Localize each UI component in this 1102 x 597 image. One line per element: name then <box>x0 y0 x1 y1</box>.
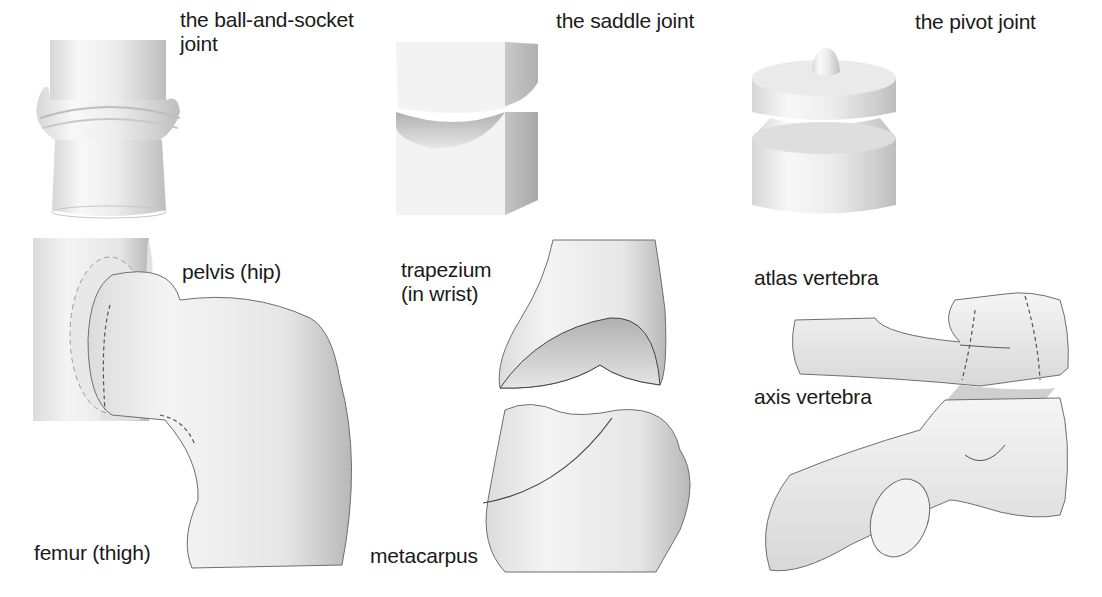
pivot-joint-model-icon <box>752 48 896 214</box>
thumb-joint-illustration-icon <box>483 240 690 572</box>
axis-vertebra-label: axis vertebra <box>754 385 872 409</box>
ball-and-socket-joint-model-icon <box>36 40 180 218</box>
saddle-joint-model-icon <box>396 42 538 215</box>
ball-and-socket-joint-label: the ball-and-socket joint <box>180 8 354 56</box>
femur-label: femur (thigh) <box>34 541 150 565</box>
pivot-joint-label: the pivot joint <box>915 10 1036 34</box>
metacarpus-label: metacarpus <box>370 544 478 568</box>
joint-illustrations <box>0 0 1102 597</box>
neck-vertebrae-illustration-icon <box>766 293 1069 571</box>
saddle-joint-label: the saddle joint <box>556 9 694 33</box>
pelvis-label: pelvis (hip) <box>182 260 281 284</box>
atlas-vertebra-label: atlas vertebra <box>754 266 878 290</box>
hip-joint-illustration-icon <box>33 238 352 568</box>
trapezium-label: trapezium (in wrist) <box>401 258 491 306</box>
